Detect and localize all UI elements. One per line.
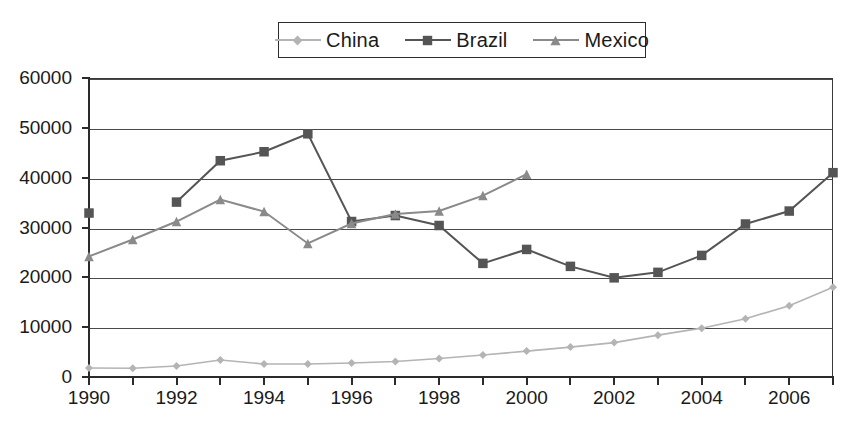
x-tick-2004	[701, 378, 703, 385]
data-point-china-2004	[698, 324, 706, 332]
x-axis-label-2000: 2000	[506, 388, 548, 407]
x-tick-2007	[832, 378, 834, 385]
y-tick-40000	[82, 177, 89, 179]
x-tick-1994	[263, 378, 265, 385]
data-point-china-2001	[566, 343, 574, 351]
data-point-china-1994	[260, 360, 268, 368]
data-point-brazil-1994	[259, 147, 269, 157]
data-point-china-2006	[785, 302, 793, 310]
x-tick-2003	[657, 378, 659, 385]
x-axis-label-1994: 1994	[243, 388, 285, 407]
series-line-brazil	[177, 134, 833, 278]
data-point-brazil-1999	[478, 259, 488, 269]
data-point-china-2000	[523, 347, 531, 355]
x-tick-2005	[744, 378, 746, 385]
data-point-china-1997	[391, 358, 399, 366]
x-tick-1998	[438, 378, 440, 385]
data-point-brazil-2001	[566, 262, 576, 272]
x-axis-label-2002: 2002	[593, 388, 635, 407]
x-tick-1996	[351, 378, 353, 385]
data-point-brazil-2002	[609, 273, 619, 283]
series-brazil	[84, 129, 838, 283]
series-layer	[0, 0, 856, 433]
data-point-brazil-1992	[172, 197, 182, 207]
data-point-china-1993	[216, 356, 224, 364]
x-tick-2001	[569, 378, 571, 385]
x-tick-1993	[219, 378, 221, 385]
data-point-mexico-1991	[128, 235, 138, 245]
x-axis-label-1998: 1998	[418, 388, 460, 407]
data-point-china-2002	[610, 339, 618, 347]
data-point-brazil-1990	[84, 208, 94, 218]
x-axis-label-1990: 1990	[68, 388, 110, 407]
data-point-brazil-2007	[828, 168, 838, 178]
data-point-brazil-2000	[522, 245, 532, 255]
data-point-china-1995	[304, 360, 312, 368]
data-point-brazil-2003	[653, 268, 663, 278]
x-axis-label-1996: 1996	[330, 388, 372, 407]
chart-root: China Brazil Mexico 01000020000300004000…	[0, 0, 856, 433]
x-axis-label-2006: 2006	[768, 388, 810, 407]
y-tick-10000	[82, 326, 89, 328]
data-point-mexico-2000	[522, 169, 532, 179]
x-axis-label-1992: 1992	[155, 388, 197, 407]
y-tick-30000	[82, 227, 89, 229]
data-point-china-1991	[129, 364, 137, 372]
y-tick-20000	[82, 276, 89, 278]
x-tick-1999	[482, 378, 484, 385]
data-point-brazil-1995	[303, 129, 313, 139]
y-tick-50000	[82, 127, 89, 129]
data-point-china-2003	[654, 331, 662, 339]
x-axis-label-2004: 2004	[681, 388, 723, 407]
x-tick-1991	[132, 378, 134, 385]
x-tick-1995	[307, 378, 309, 385]
data-point-china-1990	[85, 364, 93, 372]
data-point-china-2007	[829, 283, 837, 291]
series-china	[85, 283, 837, 372]
x-tick-1992	[176, 378, 178, 385]
x-tick-1997	[394, 378, 396, 385]
x-tick-2006	[788, 378, 790, 385]
data-point-mexico-1999	[478, 191, 488, 201]
data-point-brazil-1993	[216, 156, 226, 166]
series-line-china	[89, 287, 833, 368]
data-point-china-1999	[479, 351, 487, 359]
data-point-china-1998	[435, 355, 443, 363]
x-tick-2002	[613, 378, 615, 385]
data-point-brazil-2006	[784, 206, 794, 216]
x-tick-1990	[88, 378, 90, 385]
data-point-mexico-1992	[172, 217, 182, 227]
data-point-mexico-1990	[84, 252, 94, 261]
data-point-china-1992	[173, 362, 181, 370]
data-point-brazil-2004	[697, 251, 707, 261]
data-point-brazil-1998	[434, 221, 444, 231]
x-tick-2000	[526, 378, 528, 385]
data-point-china-2005	[741, 315, 749, 323]
y-tick-60000	[82, 77, 89, 79]
data-point-china-1996	[348, 359, 356, 367]
data-point-brazil-2005	[741, 219, 751, 229]
